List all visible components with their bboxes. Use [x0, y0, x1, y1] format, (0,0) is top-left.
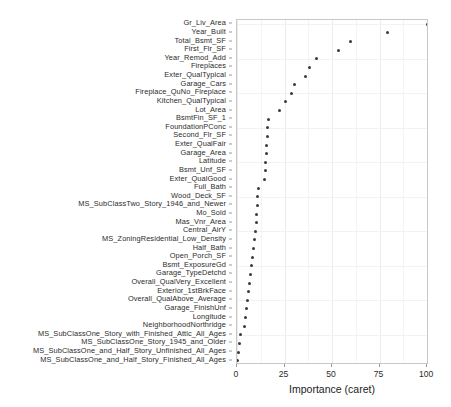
gridline-horizontal: [237, 300, 427, 301]
data-point: [252, 247, 255, 250]
data-point: [304, 75, 307, 78]
data-point: [349, 40, 352, 43]
y-axis-tick: [229, 230, 232, 231]
y-axis-tick: [229, 31, 232, 32]
x-axis-tick-label: 50: [326, 369, 336, 379]
y-axis-tick: [229, 92, 232, 93]
y-axis-tick: [229, 299, 232, 300]
y-axis-tick: [229, 256, 232, 257]
data-point: [264, 161, 267, 164]
gridline-horizontal: [237, 335, 427, 336]
data-point: [256, 204, 259, 207]
y-axis-tick: [229, 152, 232, 153]
y-axis-tick: [229, 187, 232, 188]
data-point: [239, 333, 242, 336]
x-axis-title: Importance (caret): [236, 383, 428, 395]
y-axis-tick: [229, 126, 232, 127]
y-axis-tick: [229, 290, 232, 291]
data-point: [315, 57, 318, 60]
data-point: [386, 31, 389, 34]
y-axis-tick: [229, 49, 232, 50]
y-axis-tick: [229, 109, 232, 110]
data-point: [426, 23, 428, 26]
x-axis-tick-label: 25: [279, 369, 289, 379]
gridline-vertical: [380, 20, 381, 363]
y-axis-tick: [229, 75, 232, 76]
data-point: [248, 282, 251, 285]
data-point: [255, 213, 258, 216]
y-axis-tick: [229, 100, 232, 101]
y-axis-tick-label: MS_SubClassOne_and_Half_Story_Finished_A…: [40, 356, 226, 364]
gridline-vertical: [427, 20, 428, 363]
y-axis-tick: [229, 204, 232, 205]
gridline-horizontal: [237, 24, 427, 25]
y-axis-tick: [229, 178, 232, 179]
y-axis-labels: Gr_Liv_AreaYear_BuiltTotal_Bsmt_SFFirst_…: [0, 19, 232, 364]
y-axis-tick: [229, 169, 232, 170]
gridline-horizontal: [237, 197, 427, 198]
data-point: [253, 238, 256, 241]
data-point: [267, 118, 270, 121]
data-point: [264, 169, 267, 172]
data-point: [236, 359, 239, 362]
data-point: [245, 307, 248, 310]
y-axis-tick: [229, 118, 232, 119]
y-axis-tick: [229, 66, 232, 67]
data-point: [244, 316, 247, 319]
gridline-vertical: [285, 20, 286, 363]
data-point: [250, 264, 253, 267]
gridline-horizontal: [237, 93, 427, 94]
data-point: [337, 49, 340, 52]
x-axis-tick-label: 75: [374, 369, 384, 379]
gridline-vertical: [332, 20, 333, 363]
x-axis-tick: [379, 364, 380, 367]
data-point: [238, 342, 241, 345]
y-axis-tick: [229, 195, 232, 196]
x-axis-tick: [426, 364, 427, 367]
y-axis-tick: [229, 359, 232, 360]
x-axis-tick: [284, 364, 285, 367]
x-axis-tick: [331, 364, 332, 367]
data-point: [278, 109, 281, 112]
data-point: [246, 299, 249, 302]
y-axis-tick: [229, 316, 232, 317]
data-point: [263, 178, 266, 181]
data-point: [265, 144, 268, 147]
gridline-horizontal: [237, 266, 427, 267]
y-axis-tick: [229, 238, 232, 239]
y-axis-tick: [229, 161, 232, 162]
gridline-vertical-minor: [356, 20, 357, 363]
data-point: [265, 152, 268, 155]
plot-panel: [236, 19, 428, 364]
gridline-horizontal: [237, 231, 427, 232]
data-point: [256, 195, 259, 198]
data-point: [247, 290, 250, 293]
data-point: [290, 92, 293, 95]
data-point: [255, 221, 258, 224]
y-axis-tick: [229, 325, 232, 326]
y-axis-tick: [229, 264, 232, 265]
x-axis-tick-label: 100: [419, 369, 433, 379]
gridline-vertical-minor: [403, 20, 404, 363]
y-axis-tick: [229, 247, 232, 248]
x-axis-tick-label: 0: [234, 369, 239, 379]
data-point: [237, 351, 240, 354]
y-axis-tick: [229, 144, 232, 145]
data-point: [251, 256, 254, 259]
gridline-vertical-minor: [308, 20, 309, 363]
gridline-vertical: [237, 20, 238, 363]
y-axis-tick: [229, 221, 232, 222]
y-axis-tick: [229, 40, 232, 41]
data-point: [293, 83, 296, 86]
y-axis-tick: [229, 282, 232, 283]
chart-root: Gr_Liv_AreaYear_BuiltTotal_Bsmt_SFFirst_…: [0, 0, 451, 407]
data-point: [284, 100, 287, 103]
y-axis-tick: [229, 23, 232, 24]
data-point: [243, 325, 246, 328]
y-axis-tick: [229, 83, 232, 84]
data-point: [249, 273, 252, 276]
x-axis-tick: [236, 364, 237, 367]
data-point: [266, 126, 269, 129]
data-point: [266, 135, 269, 138]
y-axis-tick: [229, 307, 232, 308]
